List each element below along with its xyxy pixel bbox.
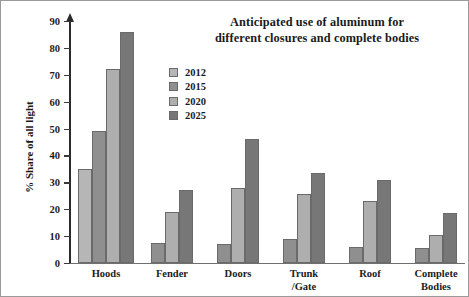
y-axis-tick-label: 0 — [20, 258, 60, 269]
y-axis-line — [69, 21, 71, 263]
x-axis-label-line: /Gate — [258, 281, 350, 294]
bar-fender-2025 — [179, 190, 193, 263]
chart-legend: 2012201520202025 — [169, 65, 206, 123]
x-axis-line — [69, 263, 465, 264]
legend-swatch-2015 — [169, 82, 178, 91]
bar-group — [349, 21, 391, 263]
legend-swatch-2025 — [169, 111, 178, 120]
y-axis-tick — [64, 21, 70, 22]
y-axis-tick-label: 50 — [20, 123, 60, 134]
y-axis-tick-label: 70 — [20, 69, 60, 80]
bar-doors-2025 — [245, 139, 259, 263]
y-axis-tick-label: 20 — [20, 204, 60, 215]
y-axis-tick — [64, 102, 70, 103]
bar-fender-2015 — [151, 243, 165, 263]
bar-complete-bodies-2020 — [429, 235, 443, 263]
x-axis-label-line: Bodies — [390, 281, 469, 294]
legend-item-2015: 2015 — [169, 80, 206, 95]
bar-trunk-gate-2020 — [297, 194, 311, 263]
bar-roof-2015 — [349, 247, 363, 263]
legend-swatch-2012 — [169, 68, 178, 77]
bar-hoods-2012 — [78, 169, 92, 263]
y-axis-tick — [64, 263, 70, 264]
y-axis-tick — [64, 48, 70, 49]
x-axis-label-line: Complete — [390, 268, 469, 281]
y-axis-tick — [64, 129, 70, 130]
y-axis-tick — [64, 75, 70, 76]
bar-complete-bodies-2025 — [443, 213, 457, 263]
bar-trunk-gate-2025 — [311, 173, 325, 263]
bar-doors-2020 — [231, 188, 245, 263]
x-axis-label-complete-bodies: CompleteBodies — [390, 268, 469, 293]
bar-roof-2025 — [377, 180, 391, 263]
bar-hoods-2015 — [92, 131, 106, 263]
y-axis-tick — [64, 182, 70, 183]
legend-item-2020: 2020 — [169, 94, 206, 109]
bar-roof-2020 — [363, 201, 377, 263]
legend-item-2012: 2012 — [169, 65, 206, 80]
y-axis-tick-label: 30 — [20, 177, 60, 188]
legend-label-2025: 2025 — [185, 110, 206, 121]
y-axis-tick-label: 10 — [20, 231, 60, 242]
bar-complete-bodies-2015 — [415, 248, 429, 263]
legend-swatch-2020 — [169, 97, 178, 106]
bar-hoods-2020 — [106, 69, 120, 263]
bar-group — [78, 21, 134, 263]
bar-fender-2020 — [165, 212, 179, 263]
bar-trunk-gate-2015 — [283, 239, 297, 263]
y-axis-tick — [64, 209, 70, 210]
y-axis-tick — [64, 155, 70, 156]
y-axis-tick-label: 60 — [20, 96, 60, 107]
bar-group — [283, 21, 325, 263]
legend-label-2012: 2012 — [185, 67, 206, 78]
y-axis-tick-label: 90 — [20, 16, 60, 27]
bar-doors-2015 — [217, 244, 231, 263]
legend-label-2020: 2020 — [185, 96, 206, 107]
y-axis-tick-label: 80 — [20, 42, 60, 53]
legend-label-2015: 2015 — [185, 81, 206, 92]
bar-group — [415, 21, 457, 263]
legend-item-2025: 2025 — [169, 109, 206, 124]
plot-area: 0102030405060708090 HoodsFenderDoorsTrun… — [69, 21, 465, 263]
bar-group — [151, 21, 193, 263]
bar-group — [217, 21, 259, 263]
chart-figure: Anticipated use of aluminum for differen… — [0, 0, 469, 297]
y-axis-tick — [64, 236, 70, 237]
y-axis-tick-label: 40 — [20, 150, 60, 161]
bar-hoods-2025 — [120, 32, 134, 263]
